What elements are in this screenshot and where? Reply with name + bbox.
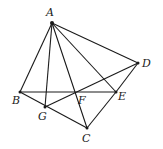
label-E: E xyxy=(117,90,126,103)
segment-AE xyxy=(52,23,116,92)
vertices xyxy=(19,21,140,130)
point-D xyxy=(137,62,140,65)
point-G xyxy=(44,106,47,109)
label-C: C xyxy=(82,132,91,145)
label-B: B xyxy=(11,94,20,107)
point-C xyxy=(86,127,89,130)
point-labels: A B G C E D F xyxy=(11,6,151,145)
label-F: F xyxy=(77,94,86,107)
geometry-diagram: A B G C E D F xyxy=(0,0,163,149)
label-D: D xyxy=(141,57,151,70)
segment-CE xyxy=(87,92,116,128)
segment-AD xyxy=(52,23,138,63)
label-G: G xyxy=(38,110,47,123)
label-A: A xyxy=(45,6,54,19)
segment-ED xyxy=(116,63,138,92)
point-A xyxy=(50,21,54,25)
